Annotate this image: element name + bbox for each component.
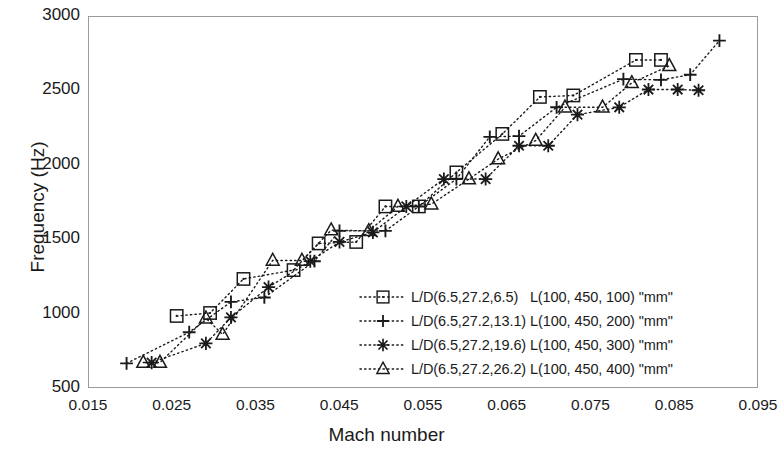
legend-marker-triangle-icon: [359, 359, 407, 379]
data-point-triangle: [325, 223, 338, 235]
data-point-plus: [684, 68, 697, 81]
series-1: [170, 54, 667, 322]
data-point-plus: [120, 357, 133, 370]
chart-legend: L/D(6.5,27.2,6.5) L(100, 450, 100) "mm" …: [359, 286, 673, 380]
x-axis-tick-label: 0.075: [556, 396, 626, 414]
data-point-triangle: [266, 253, 279, 265]
data-point-asterisk: [199, 337, 212, 350]
data-point-plus: [713, 34, 726, 47]
legend-item-label: L/D(6.5,27.2,26.2) L(100, 450, 400) "mm": [411, 361, 673, 377]
data-point-triangle: [663, 59, 676, 71]
x-axis-tick-label: 0.015: [53, 396, 123, 414]
x-axis-tick-label: 0.045: [304, 396, 374, 414]
data-point-plus: [377, 315, 389, 327]
legend-item-label: L/D(6.5,27.2,19.6) L(100, 450, 300) "mm": [411, 337, 673, 353]
data-point-square-dot: [655, 54, 667, 66]
x-axis-tick-label: 0.085: [639, 396, 709, 414]
data-point-plus: [412, 200, 425, 213]
data-point-asterisk: [642, 83, 655, 96]
data-point-asterisk: [692, 84, 705, 97]
x-axis-title: Mach number: [0, 424, 773, 446]
data-point-asterisk: [377, 339, 390, 352]
data-point-asterisk: [437, 172, 450, 185]
data-point-asterisk: [479, 172, 492, 185]
legend-marker-asterisk-icon: [359, 335, 407, 355]
x-axis-tick-label: 0.025: [137, 396, 207, 414]
data-point-asterisk: [542, 139, 555, 152]
data-point-plus: [225, 296, 238, 309]
data-point-plus: [183, 326, 196, 339]
data-point-plus: [655, 74, 668, 87]
data-point-asterisk: [671, 83, 684, 96]
x-axis-tick-label: 0.065: [472, 396, 542, 414]
legend-marker-square-dot-icon: [359, 287, 407, 307]
data-point-triangle: [377, 362, 389, 373]
data-point-asterisk: [333, 235, 346, 248]
data-point-asterisk: [262, 281, 275, 294]
legend-item: L/D(6.5,27.2,19.6) L(100, 450, 300) "mm": [359, 334, 673, 356]
x-axis-tick-label: 0.035: [221, 396, 291, 414]
x-axis-tick-label: 0.095: [723, 396, 782, 414]
legend-item-label: L/D(6.5,27.2,6.5) L(100, 450, 100) "mm": [411, 289, 673, 305]
data-point-triangle: [425, 197, 438, 209]
legend-marker-plus-icon: [359, 311, 407, 331]
data-point-asterisk: [571, 108, 584, 121]
legend-item: L/D(6.5,27.2,13.1) L(100, 450, 200) "mm": [359, 310, 673, 332]
legend-item: L/D(6.5,27.2,26.2) L(100, 450, 400) "mm": [359, 358, 673, 380]
y-axis-title: Frequency (Hz): [27, 17, 49, 397]
x-axis-tick-label: 0.055: [388, 396, 458, 414]
data-point-asterisk: [613, 101, 626, 114]
plot-area: L/D(6.5,27.2,6.5) L(100, 450, 100) "mm" …: [88, 16, 758, 388]
legend-item: L/D(6.5,27.2,6.5) L(100, 450, 100) "mm": [359, 286, 673, 308]
legend-item-label: L/D(6.5,27.2,13.1) L(100, 450, 200) "mm": [411, 313, 673, 329]
